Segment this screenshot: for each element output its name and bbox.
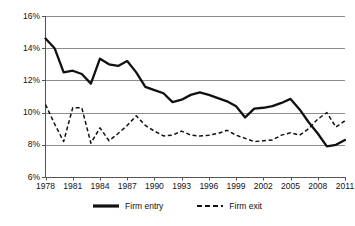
x-axis-tick-label: 1984 bbox=[87, 182, 113, 191]
y-axis-tick-label: 16% bbox=[18, 12, 40, 21]
legend-item-firm-entry: Firm entry bbox=[93, 201, 163, 211]
x-axis-tick-label: 1999 bbox=[223, 182, 249, 191]
y-axis-tick-label: 10% bbox=[18, 108, 40, 117]
series-line-firm-entry bbox=[46, 39, 346, 147]
legend-label-firm-entry: Firm entry bbox=[125, 201, 163, 211]
x-axis-tick-label: 1993 bbox=[169, 182, 195, 191]
x-axis-tick-label: 2011 bbox=[332, 182, 355, 191]
x-axis-tick-label: 2005 bbox=[278, 182, 304, 191]
x-axis-tick-label: 1990 bbox=[141, 182, 167, 191]
x-axis-tick-label: 1987 bbox=[114, 182, 140, 191]
legend-item-firm-exit: Firm exit bbox=[197, 201, 262, 211]
y-axis-tick-label: 12% bbox=[18, 76, 40, 85]
line-chart: 6%8%10%12%14%16% 19781981198419871990199… bbox=[0, 0, 355, 226]
x-axis-tick-label: 1978 bbox=[33, 182, 59, 191]
x-axis-ticks bbox=[42, 17, 346, 181]
legend-swatch-solid-icon bbox=[93, 201, 119, 211]
y-axis-tick-label: 8% bbox=[18, 140, 40, 149]
x-axis-tick-label: 2008 bbox=[305, 182, 331, 191]
gridlines bbox=[46, 17, 346, 146]
x-axis-tick-label: 1996 bbox=[196, 182, 222, 191]
chart-legend: Firm entry Firm exit bbox=[0, 201, 355, 211]
legend-swatch-dashed-icon bbox=[197, 201, 223, 211]
x-axis-tick-label: 2002 bbox=[250, 182, 276, 191]
x-axis-tick-label: 1981 bbox=[60, 182, 86, 191]
legend-label-firm-exit: Firm exit bbox=[229, 201, 262, 211]
chart-plot-area bbox=[0, 0, 355, 226]
y-axis-tick-label: 14% bbox=[18, 44, 40, 53]
